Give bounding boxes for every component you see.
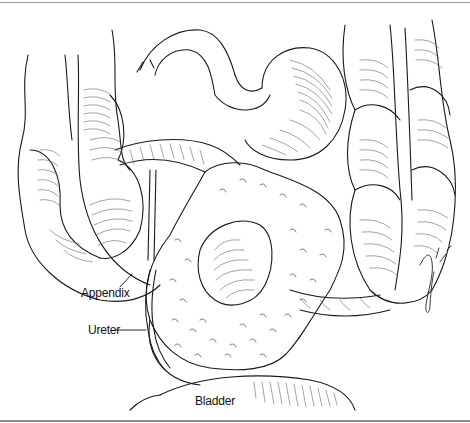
- bladder-label: Bladder: [195, 394, 235, 408]
- bladder: [130, 376, 355, 410]
- ascending-colon-hatching: [38, 89, 132, 262]
- bladder-hatching: [254, 382, 337, 407]
- small-bowel-loop: [137, 30, 346, 160]
- descending-colon: [290, 20, 455, 316]
- appendix-label: Appendix: [81, 286, 129, 300]
- descending-colon-hatching: [300, 40, 448, 310]
- ileum-hatching: [130, 144, 204, 164]
- ascending-colon: [18, 30, 160, 301]
- frame-bottom-rule: [0, 420, 470, 422]
- ureter-label: Ureter: [88, 323, 120, 337]
- pelvic-mass: [146, 163, 344, 385]
- small-bowel-hatching: [262, 60, 332, 155]
- pelvic-mass-hatching: [214, 240, 254, 298]
- stipple-texture: [170, 179, 331, 357]
- anatomical-illustration: [0, 0, 470, 423]
